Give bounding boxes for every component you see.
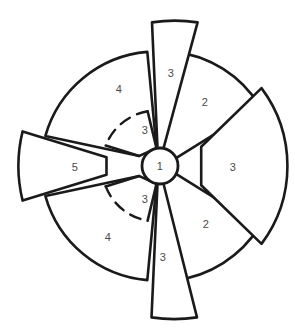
sector-label-top: 3 — [168, 67, 174, 79]
sector-label-bottom: 3 — [160, 251, 166, 263]
sector-label-lower-right: 2 — [203, 218, 209, 230]
sector-diagram-canvas: 3 2 3 2 3 3 5 3 4 4 1 — [0, 0, 295, 334]
sector-label-upper-inner: 3 — [142, 124, 148, 136]
center-hub-label: 1 — [157, 160, 163, 172]
sector-label-right: 3 — [230, 161, 236, 173]
sector-label-lower-left: 4 — [105, 231, 111, 243]
sector-label-upper-right: 2 — [202, 96, 208, 108]
sector-label-lower-inner: 3 — [142, 193, 148, 205]
sector-lower-left[interactable] — [45, 176, 156, 280]
sector-label-upper-left: 4 — [116, 83, 122, 95]
radial-sector-diagram: 3 2 3 2 3 3 5 3 4 4 1 — [0, 0, 295, 334]
sector-upper-left[interactable] — [45, 52, 156, 156]
sector-label-left: 5 — [72, 161, 78, 173]
